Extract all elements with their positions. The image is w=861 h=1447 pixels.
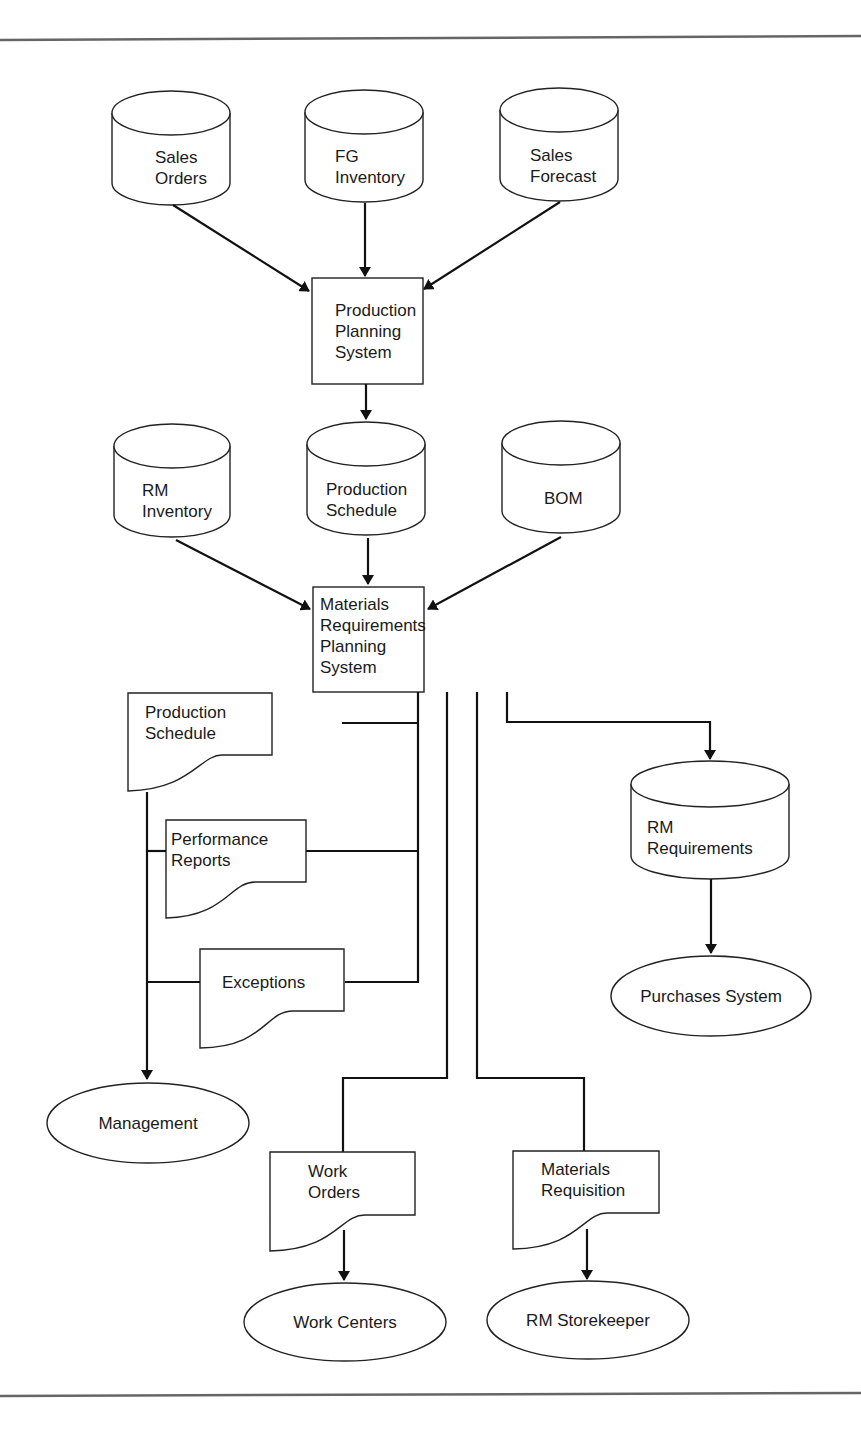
rm-storekeeper-label: RM Storekeeper <box>488 1310 688 1331</box>
bom-cylinder[interactable] <box>502 421 620 533</box>
flow-to-materials-requisition <box>477 692 584 1151</box>
performance-reports-label: PerformanceReports <box>171 829 268 871</box>
purchases-system-label: Purchases System <box>611 986 811 1007</box>
flow-to-rm-requirements <box>507 692 710 759</box>
production-planning-system-label: Production Planning System <box>335 300 416 363</box>
bom-label: BOM <box>544 488 583 509</box>
flow-to-work-orders <box>343 692 447 1152</box>
work-orders-label: WorkOrders <box>308 1161 360 1203</box>
flow-sales-orders <box>173 205 309 291</box>
flowchart-canvas <box>0 0 861 1447</box>
fg-inventory-label: FGInventory <box>335 146 405 188</box>
management-label: Management <box>48 1113 248 1134</box>
flow-rm-inventory <box>176 540 310 609</box>
bottom-rule <box>0 1393 861 1396</box>
production-schedule-document-label: ProductionSchedule <box>145 702 226 744</box>
rm-inventory-label: RMInventory <box>142 480 212 522</box>
production-schedule-store-label: ProductionSchedule <box>326 479 407 521</box>
sales-forecast-label: SalesForecast <box>530 145 596 187</box>
flow-sales-forecast <box>424 202 560 289</box>
rm-requirements-label: RMRequirements <box>647 817 753 859</box>
top-rule <box>0 36 861 40</box>
exceptions-document[interactable] <box>200 949 344 1048</box>
sales-orders-label: SalesOrders <box>155 147 207 189</box>
work-centers-label: Work Centers <box>245 1312 445 1333</box>
flow-mrp-reports <box>345 692 418 982</box>
materials-requisition-label: MaterialsRequisition <box>541 1159 625 1201</box>
flow-bom <box>428 537 561 609</box>
mrp-system-label: Materials Requirements Planning System <box>320 594 426 678</box>
exceptions-label: Exceptions <box>222 972 305 993</box>
